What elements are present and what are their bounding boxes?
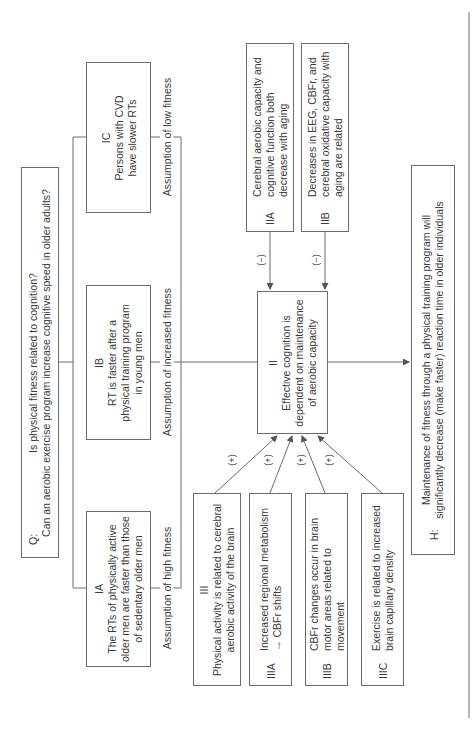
box-IIB: IIB Decreases in EEG, CBFr, and cerebral… (301, 43, 349, 232)
box-text: Effective cognition is dependent on main… (280, 295, 319, 431)
hypothesis-box: H: Maintenance of fitness through a phys… (411, 165, 455, 555)
question-box: Q: Is physical fitness related to cognit… (21, 167, 59, 558)
box-IIIB: IIIB CBFr changes occur in brain motor a… (305, 493, 348, 686)
question-label: Q: (27, 533, 40, 544)
box-text: Persons with CVD have slower RTs (112, 68, 138, 208)
box-id: IA (93, 514, 106, 664)
box-IIA: IIA Cerebral aerobic capacity and cognit… (246, 43, 294, 232)
hypothesis-line2: significantly decrease (make faster) rea… (433, 170, 446, 550)
box-III: III Physical activity is related to cere… (193, 493, 241, 686)
box-text: Increased regional metabolism → CBFr shi… (258, 497, 284, 651)
box-text: RT is faster after a physical training p… (106, 290, 145, 435)
sign-plus-IIIA: (+) (263, 454, 273, 465)
sign-plus-IIIC: (+) (324, 454, 334, 465)
box-IIIC: IIIC Exercise is related to increased br… (361, 493, 404, 686)
hypothesis-line1: Maintenance of fitness through a physica… (420, 170, 433, 550)
box-II: II Effective cognition is dependent on m… (257, 291, 328, 434)
hypothesis-label: H: (428, 530, 441, 541)
box-id: IIA (264, 197, 277, 229)
question-line1: Is physical fitness related to cognition… (27, 173, 40, 553)
box-text: The RTs of physically active older men a… (106, 514, 145, 664)
box-IIIA: IIIA Increased regional metabolism → CBF… (249, 493, 292, 686)
box-IA: IA The RTs of physically active older me… (86, 511, 151, 667)
sign-minus-IIB: (−) (311, 254, 321, 265)
box-IB: IB RT is faster after a physical trainin… (86, 285, 151, 440)
question-line2: Can an aerobic exercise program increase… (40, 173, 53, 553)
sign-plus-IIIB: (+) (296, 454, 306, 465)
box-id: IB (93, 290, 106, 435)
box-id: IIB (319, 197, 332, 229)
box-text: Cerebral aerobic capacity and cognitive … (251, 47, 290, 197)
box-text: Physical activity is related to cerebral… (211, 497, 237, 683)
box-id: III (198, 497, 211, 683)
box-text: Decreases in EEG, CBFr, and cerebral oxi… (306, 47, 345, 197)
sign-plus-III: (+) (227, 454, 237, 465)
sign-minus-IIA: (−) (256, 254, 266, 265)
box-id: IC (99, 68, 112, 208)
box-id: IIIB (320, 651, 333, 683)
box-id: IIIA (264, 651, 277, 683)
box-id: IIIC (376, 651, 389, 683)
box-text: CBFr changes occur in brain motor areas … (307, 497, 346, 651)
box-id: II (267, 295, 280, 431)
box-text: Exercise is related to increased brain c… (370, 497, 396, 651)
box-IC: IC Persons with CVD have slower RTs (86, 62, 151, 213)
